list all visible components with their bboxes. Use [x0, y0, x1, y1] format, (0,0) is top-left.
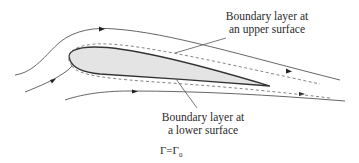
lower-label-line1: Boundary layer at [148, 111, 258, 124]
arrow-icon [132, 90, 138, 94]
circulation-subscript: 0 [179, 151, 183, 159]
arrow-icon [50, 79, 56, 84]
arrow-icon [286, 69, 292, 74]
upper-label-line2: an upper surface [212, 23, 322, 36]
arrow-icon [299, 92, 305, 96]
lower-label-leader [176, 79, 197, 108]
upper-label-line1: Boundary layer at [212, 10, 322, 23]
circulation-equation: Γ=Γ0 [160, 144, 200, 162]
lower-boundary-layer-label: Boundary layer at a lower surface [148, 111, 258, 137]
upper-boundary-layer-label: Boundary layer at an upper surface [212, 10, 322, 36]
arrow-icon [99, 27, 105, 32]
stagnation-streamline [25, 66, 72, 92]
lower-label-line2: a lower surface [148, 124, 258, 137]
lower-streamline [65, 91, 345, 101]
